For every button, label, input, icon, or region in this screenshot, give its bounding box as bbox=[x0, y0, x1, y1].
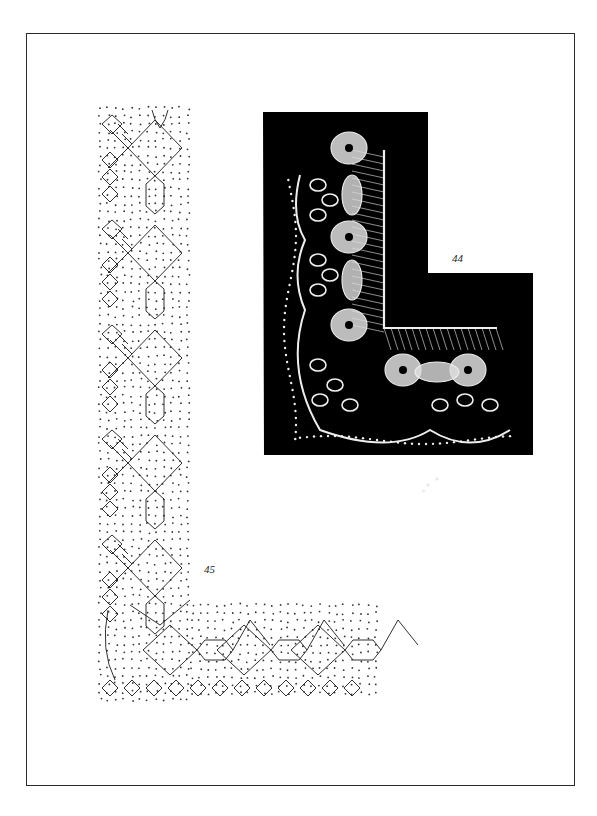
pricking-dots bbox=[98, 106, 378, 702]
figure-label-45: 45 bbox=[204, 563, 215, 575]
thread-lines bbox=[102, 110, 418, 696]
pricking-diagram bbox=[0, 0, 597, 816]
faint-stamp-mark bbox=[410, 470, 455, 500]
